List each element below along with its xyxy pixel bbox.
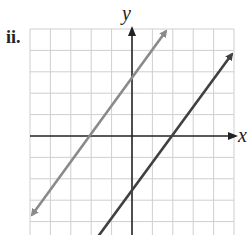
light-line xyxy=(32,31,166,215)
dark-line xyxy=(97,54,232,235)
coordinate-plane xyxy=(0,0,247,235)
graph-figure: ii. y x xyxy=(0,0,247,235)
